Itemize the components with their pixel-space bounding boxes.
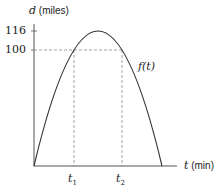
- x-tick-label-t1: t1: [68, 173, 77, 187]
- y-axis-unit: (miles): [36, 5, 69, 16]
- x-axis-unit: (min): [188, 160, 214, 171]
- y-axis-label: d (miles): [29, 5, 69, 16]
- y-axis-var: d: [29, 4, 36, 17]
- t2-sub: 2: [120, 179, 124, 187]
- y-tick-label-116: 116: [5, 25, 26, 36]
- t1-sub: 1: [72, 179, 76, 187]
- y-tick-label-100: 100: [5, 44, 26, 55]
- chart-area: d (miles) 116 100 f(t) t1 t2 t (min): [0, 0, 219, 190]
- curve-label: f(t): [138, 61, 155, 72]
- x-tick-label-t2: t2: [116, 173, 125, 187]
- x-axis-label: t (min): [184, 160, 214, 171]
- curve-f-of-t: [34, 31, 162, 166]
